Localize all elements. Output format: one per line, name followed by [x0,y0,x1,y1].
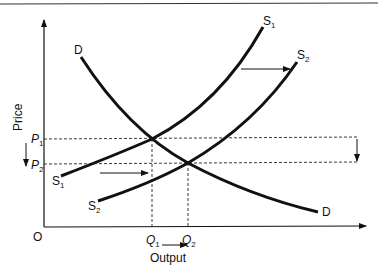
price-p2-label: P2 [31,158,44,174]
origin-label: O [33,230,42,244]
top-border [0,3,378,4]
price-p1-label: P1 [31,132,44,148]
supply-curve-1 [61,27,263,176]
supply2-label-top: S2 [297,48,310,64]
supply-demand-diagram: D D S1 S1 S2 S2 P1 P2 Q1 Q2 O Price Outp… [0,0,378,269]
x-axis-label: Output [150,251,187,265]
demand-label-top: D [74,43,83,57]
quantity-q2-label: Q2 [182,233,196,249]
x-axis [44,226,366,227]
quantity-q1-label: Q1 [146,233,160,249]
demand-label-bottom: D [322,205,331,219]
guide-lines [44,137,358,227]
supply1-label-top: S1 [263,14,276,30]
y-axis-label: Price [11,103,25,131]
supply-curve-2 [98,62,297,201]
